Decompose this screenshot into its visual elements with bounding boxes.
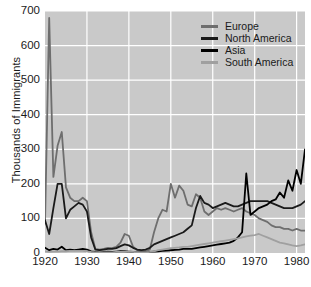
- x-tick-label-1940: 1940: [116, 256, 142, 268]
- legend-label: North America: [225, 32, 292, 44]
- immigration-line-chart: Thousands of Immigrants 0100200300400500…: [0, 0, 311, 287]
- legend-label: South America: [225, 56, 293, 68]
- x-tick-label-1960: 1960: [200, 256, 226, 268]
- x-tick-label-1950: 1950: [158, 256, 184, 268]
- y-tick-label-100: 100: [10, 212, 40, 224]
- y-tick-label-500: 500: [10, 74, 40, 86]
- y-axis-tick-labels: 0100200300400500600700: [8, 0, 40, 287]
- legend-label: Asia: [225, 44, 245, 56]
- legend: EuropeNorth AmericaAsiaSouth America: [201, 20, 309, 68]
- legend-swatch-icon: [201, 61, 218, 64]
- legend-item-europe: Europe: [201, 20, 309, 32]
- legend-item-asia: Asia: [201, 44, 309, 56]
- legend-swatch-icon: [201, 25, 218, 28]
- series-line-north-america: [45, 184, 305, 250]
- legend-item-south-america: South America: [201, 56, 309, 68]
- legend-item-north-america: North America: [201, 32, 309, 44]
- legend-swatch-icon: [201, 49, 218, 52]
- y-tick-label-400: 400: [10, 109, 40, 121]
- y-tick-label-700: 700: [10, 5, 40, 17]
- x-axis-tick-labels: 1920193019401950196019701980: [45, 256, 305, 276]
- y-tick-label-600: 600: [10, 40, 40, 52]
- legend-swatch-icon: [201, 37, 218, 40]
- x-tick-label-1920: 1920: [32, 256, 58, 268]
- x-tick-label-1980: 1980: [284, 256, 310, 268]
- y-tick-label-300: 300: [10, 143, 40, 155]
- y-tick-label-200: 200: [10, 178, 40, 190]
- x-tick-label-1930: 1930: [74, 256, 100, 268]
- legend-label: Europe: [225, 20, 259, 32]
- x-tick-label-1970: 1970: [242, 256, 268, 268]
